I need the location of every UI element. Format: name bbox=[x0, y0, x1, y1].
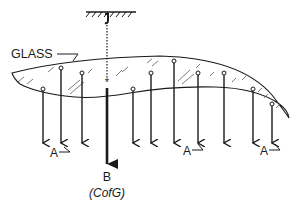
point-a-label-2: A bbox=[183, 144, 191, 158]
ceiling-support bbox=[86, 12, 136, 17]
glass-hatching bbox=[18, 59, 280, 108]
point-a-pointer-3 bbox=[269, 144, 280, 150]
glass-cofg-diagram: * GLASS A A A B (CofG) bbox=[0, 0, 292, 205]
point-a-label-3: A bbox=[260, 144, 268, 158]
glass-leader-line bbox=[57, 54, 78, 61]
cofg-label: (CofG) bbox=[89, 186, 125, 200]
point-a-pointer-2 bbox=[192, 144, 203, 150]
glass-label: GLASS bbox=[11, 47, 53, 61]
cofg-asterisk-icon: * bbox=[105, 76, 110, 88]
point-a-pointer-1 bbox=[59, 147, 70, 152]
point-b-label: B bbox=[103, 170, 111, 184]
point-a-label-1: A bbox=[50, 146, 58, 160]
